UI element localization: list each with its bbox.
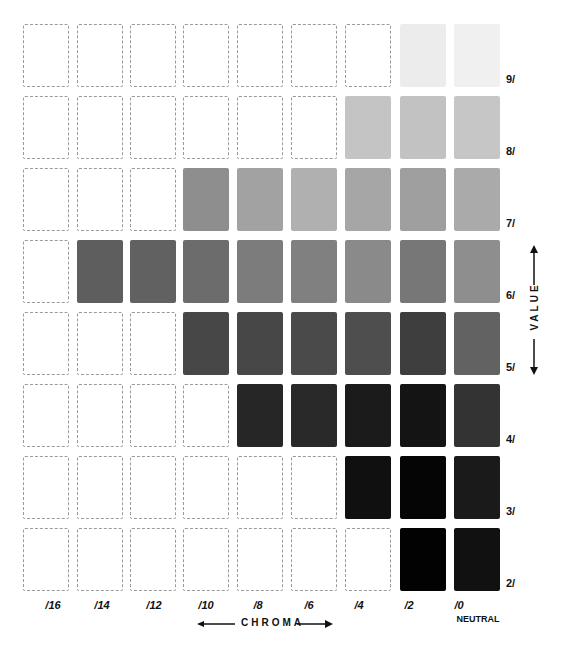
column-label: /10 — [183, 599, 229, 611]
color-chip — [400, 96, 446, 159]
empty-chip-slot — [23, 168, 69, 231]
empty-chip-slot — [237, 456, 283, 519]
color-chip — [400, 312, 446, 375]
color-chip — [291, 168, 337, 231]
empty-chip-slot — [77, 528, 123, 591]
row-label: 4/ — [506, 433, 515, 445]
color-chip — [291, 312, 337, 375]
row-label: 8/ — [506, 145, 515, 157]
color-chip — [237, 168, 283, 231]
column-label: /0 — [436, 599, 482, 611]
empty-chip-slot — [291, 24, 337, 87]
color-chip — [183, 312, 229, 375]
value-label: VALUE — [529, 280, 540, 334]
empty-chip-slot — [130, 24, 176, 87]
empty-chip-slot — [23, 384, 69, 447]
empty-chip-slot — [130, 96, 176, 159]
column-label: /14 — [79, 599, 125, 611]
neutral-label: NEUTRAL — [453, 614, 503, 624]
color-chip — [454, 24, 500, 87]
color-chip — [291, 240, 337, 303]
empty-chip-slot — [291, 456, 337, 519]
empty-chip-slot — [77, 456, 123, 519]
column-label: /6 — [286, 599, 332, 611]
column-label: /4 — [336, 599, 382, 611]
row-label: 3/ — [506, 505, 515, 517]
color-chip — [345, 240, 391, 303]
color-chip — [345, 168, 391, 231]
empty-chip-slot — [237, 528, 283, 591]
empty-chip-slot — [183, 384, 229, 447]
color-chip — [454, 240, 500, 303]
empty-chip-slot — [23, 240, 69, 303]
empty-chip-slot — [23, 24, 69, 87]
color-chip — [291, 384, 337, 447]
empty-chip-slot — [345, 528, 391, 591]
color-chip — [400, 528, 446, 591]
empty-chip-slot — [183, 528, 229, 591]
color-chip — [454, 312, 500, 375]
color-chip — [237, 240, 283, 303]
column-label: /2 — [386, 599, 432, 611]
row-label: 5/ — [506, 361, 515, 373]
empty-chip-slot — [183, 24, 229, 87]
chroma-axis: CHROMA — [197, 617, 337, 631]
color-chip — [454, 168, 500, 231]
empty-chip-slot — [77, 168, 123, 231]
color-chip — [400, 456, 446, 519]
empty-chip-slot — [130, 528, 176, 591]
empty-chip-slot — [130, 168, 176, 231]
column-label: /12 — [131, 599, 177, 611]
color-chip — [454, 456, 500, 519]
empty-chip-slot — [130, 456, 176, 519]
color-chip — [400, 384, 446, 447]
row-label: 6/ — [506, 289, 515, 301]
empty-chip-slot — [291, 528, 337, 591]
color-chip — [454, 528, 500, 591]
color-chip — [237, 312, 283, 375]
color-chip — [183, 240, 229, 303]
row-label: 7/ — [506, 217, 515, 229]
empty-chip-slot — [23, 528, 69, 591]
color-chip — [130, 240, 176, 303]
empty-chip-slot — [77, 384, 123, 447]
color-chip — [400, 24, 446, 87]
empty-chip-slot — [183, 96, 229, 159]
color-chip — [454, 384, 500, 447]
empty-chip-slot — [130, 312, 176, 375]
empty-chip-slot — [183, 456, 229, 519]
empty-chip-slot — [130, 384, 176, 447]
empty-chip-slot — [77, 96, 123, 159]
empty-chip-slot — [77, 24, 123, 87]
row-label: 9/ — [506, 73, 515, 85]
empty-chip-slot — [291, 96, 337, 159]
empty-chip-slot — [345, 24, 391, 87]
chroma-label: CHROMA — [241, 617, 304, 628]
empty-chip-slot — [77, 312, 123, 375]
color-chip — [400, 240, 446, 303]
empty-chip-slot — [23, 312, 69, 375]
color-chip — [400, 168, 446, 231]
color-chip — [237, 384, 283, 447]
color-chip — [345, 384, 391, 447]
color-chip — [183, 168, 229, 231]
column-label: /16 — [30, 599, 76, 611]
empty-chip-slot — [237, 96, 283, 159]
empty-chip-slot — [23, 456, 69, 519]
value-axis: VALUE — [527, 245, 541, 375]
color-chip — [345, 456, 391, 519]
empty-chip-slot — [237, 24, 283, 87]
row-label: 2/ — [506, 577, 515, 589]
empty-chip-slot — [23, 96, 69, 159]
color-chip — [454, 96, 500, 159]
color-chip — [77, 240, 123, 303]
column-label: /8 — [235, 599, 281, 611]
color-chip — [345, 96, 391, 159]
color-chip — [345, 312, 391, 375]
